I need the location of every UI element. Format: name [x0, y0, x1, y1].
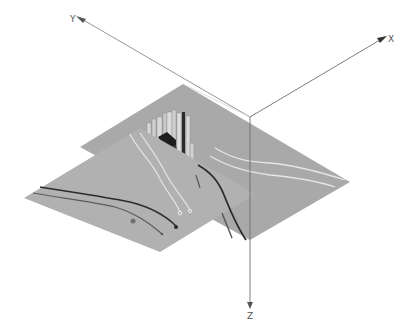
z-axis-label: Z [247, 311, 253, 321]
origin-corner [250, 113, 256, 117]
x-axis-arrowhead-icon [377, 36, 387, 43]
y-axis-arrowhead-icon [76, 16, 86, 23]
z-axis-arrowhead-icon [247, 302, 253, 309]
x-axis: X [250, 34, 394, 117]
3d-scene: Y X [0, 0, 412, 335]
x-axis-label: X [388, 34, 394, 44]
y-axis-label: Y [69, 14, 76, 24]
